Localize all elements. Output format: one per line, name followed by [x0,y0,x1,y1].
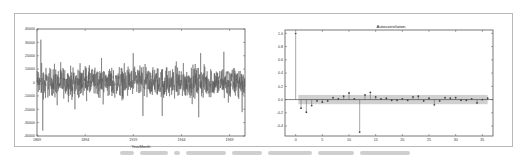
y-tick-label: 10000 [25,67,35,71]
acf-point [460,99,462,101]
acf-point [316,100,318,102]
acf-point [487,97,489,99]
acf-point [305,111,307,113]
acf-point [300,107,302,109]
acf-point [439,100,441,102]
timeseries-x-label: YearMonth [131,144,150,149]
acf-point [332,97,334,99]
acf-point [375,96,377,98]
acf-point [369,91,371,93]
acf-point [407,99,409,101]
acf-point [449,97,451,99]
x-tick-label: 0 [295,138,297,142]
acf-point [401,98,403,100]
x-tick-label: 5 [321,138,323,142]
x-tick-label: 1869 [33,138,41,142]
acf-point [359,131,361,133]
acf-axes [285,30,493,136]
acf-point [417,95,419,97]
x-tick-label: 25 [427,138,431,142]
acf-point [391,99,393,101]
acf-point [481,99,483,101]
acf-panel: Autocorrelation 1.00.80.60.40.20.0-0.2-0… [277,24,493,142]
y-tick-label: -20000 [24,108,35,112]
x-tick-label: 1944 [177,138,185,142]
y-tick-label: -30000 [24,121,35,125]
acf-point [455,97,457,99]
acf-point [343,95,345,97]
acf-point [321,101,323,103]
x-tick-label: 20 [400,138,404,142]
y-tick-label: 0 [33,81,35,85]
acf-title: Autocorrelation [377,24,407,29]
acf-point [396,99,398,101]
y-tick-label: 40000 [25,27,35,31]
timeseries-panel: 400003000020000100000-10000-20000-30000-… [24,27,245,149]
x-tick-label: 30 [454,138,458,142]
y-tick-label: -0.4 [277,124,283,128]
acf-point [364,94,366,96]
acf-point [380,98,382,100]
y-tick-label: 0.8 [278,45,283,49]
figure-canvas: 400003000020000100000-10000-20000-30000-… [0,0,524,161]
y-tick-label: 30000 [25,41,35,45]
x-tick-label: 1969 [226,138,234,142]
acf-point [311,105,313,107]
acf-point [295,32,297,34]
acf-point [385,97,387,99]
acf-point [428,97,430,99]
y-tick-label: 0.6 [278,58,283,62]
figure-caption-blurred [120,151,420,157]
acf-point [444,97,446,99]
y-tick-label: -0.2 [277,111,283,115]
x-tick-label: 10 [347,138,351,142]
acf-point [465,99,467,101]
acf-point [337,98,339,100]
acf-point [476,102,478,104]
acf-point [423,100,425,102]
x-tick-label: 1894 [81,138,89,142]
x-tick-label: 1919 [129,138,137,142]
acf-point [353,98,355,100]
y-tick-label: 0.0 [278,98,283,102]
acf-point [327,100,329,102]
x-tick-label: 35 [480,138,484,142]
acf-point [348,92,350,94]
acf-point [412,96,414,98]
y-tick-label: 1.0 [278,32,283,36]
acf-point [433,104,435,106]
y-tick-label: 0.4 [278,71,283,75]
y-tick-label: 20000 [25,54,35,58]
acf-point [471,98,473,100]
y-tick-label: -10000 [24,94,35,98]
x-tick-label: 15 [374,138,378,142]
y-tick-label: 0.2 [278,85,283,89]
